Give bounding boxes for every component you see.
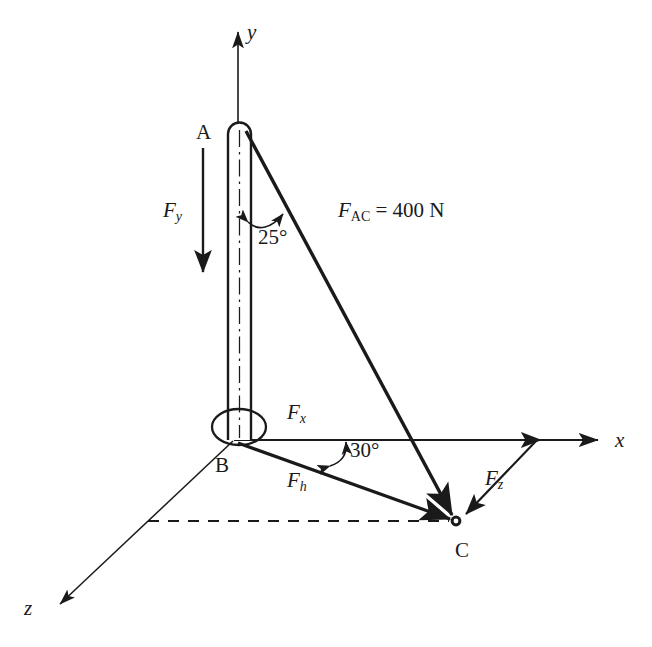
point-label-B: B	[215, 455, 229, 476]
force-sub-Fh: h	[300, 479, 307, 494]
point-C-marker	[451, 516, 462, 527]
angle-label-30: 30°	[350, 440, 379, 461]
force-base-Fy: F	[163, 198, 176, 222]
angle-30-arc	[330, 442, 346, 466]
point-label-A: A	[196, 122, 211, 143]
angle-label-25: 25°	[258, 227, 287, 248]
force-label-Fx: Fx	[287, 402, 306, 423]
force-sub-Fy: y	[176, 209, 182, 224]
force-sub-Fx: x	[300, 411, 306, 426]
force-label-Fy: Fy	[163, 200, 182, 221]
figure-canvas: y x z A B C 25° 30° Fy Fx Fh Fz FAC = 40…	[0, 0, 652, 647]
force-sub-Fz: z	[498, 477, 503, 492]
force-sub-FAC: AC	[351, 209, 370, 224]
axis-label-z: z	[24, 598, 32, 619]
force-label-Fh: Fh	[287, 470, 307, 491]
force-base-Fx: F	[287, 400, 300, 424]
axis-label-x: x	[615, 430, 624, 451]
force-base-FAC: F	[338, 198, 351, 222]
force-label-Fz: Fz	[485, 468, 503, 489]
statics-diagram-svg	[0, 0, 652, 647]
force-value-FAC: = 400 N	[370, 198, 444, 222]
pole-AB	[228, 123, 251, 441]
force-label-FAC: FAC = 400 N	[338, 200, 445, 221]
point-label-C: C	[455, 540, 469, 561]
axis-label-y: y	[247, 22, 256, 43]
z-axis	[60, 441, 233, 604]
force-base-Fz: F	[485, 466, 498, 490]
force-base-Fh: F	[287, 468, 300, 492]
